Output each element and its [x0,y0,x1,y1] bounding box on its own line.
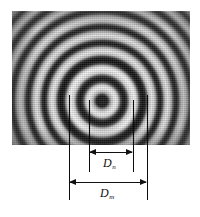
dimension-outer-label-symbol: D [100,186,109,200]
dimension-inner-arrow-left [89,149,96,155]
dimension-inner-label-subscript: n [112,163,116,171]
interference-fringes [12,11,190,145]
dimension-inner-label: Dn [103,157,115,169]
dimension-inner-arrow-right [126,149,133,155]
newtons-rings-figure: Dn Dm [0,0,200,217]
dimension-outer-line [70,182,146,183]
dimension-outer-label: Dm [100,187,114,199]
dimension-inner-label-symbol: D [103,156,112,170]
leader-line-inner-left [89,100,90,172]
dimension-outer-arrow-right [140,179,147,185]
newtons-rings-interferogram [12,11,190,145]
leader-line-outer-right [147,95,148,200]
dimension-outer-label-subscript: m [109,193,114,201]
leader-line-inner-right [133,100,134,172]
dimension-outer-arrow-left [69,179,76,185]
